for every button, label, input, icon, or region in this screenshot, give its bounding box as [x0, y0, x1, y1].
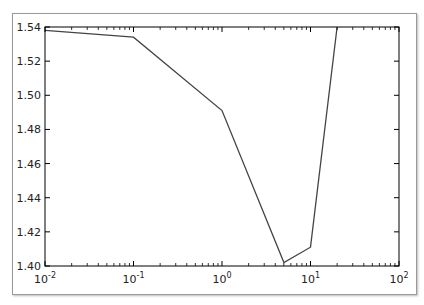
data-line [45, 27, 337, 263]
x-tick-label: 100 [212, 271, 231, 286]
line-chart: 10-210-11001011021.401.421.441.461.481.5… [0, 0, 424, 305]
y-tick-label: 1.44 [17, 192, 42, 205]
plot-area-border [45, 27, 399, 266]
y-tick-label: 1.52 [17, 55, 42, 68]
x-tick-label: 10-2 [34, 271, 56, 286]
y-tick-label: 1.50 [17, 89, 42, 102]
x-tick-label: 101 [301, 271, 320, 286]
x-tick-label: 102 [389, 271, 408, 286]
y-tick-label: 1.54 [17, 21, 42, 34]
y-tick-label: 1.40 [17, 260, 42, 273]
y-tick-label: 1.46 [17, 158, 42, 171]
y-tick-label: 1.42 [17, 226, 42, 239]
x-tick-label: 10-1 [123, 271, 145, 286]
y-tick-label: 1.48 [17, 123, 42, 136]
